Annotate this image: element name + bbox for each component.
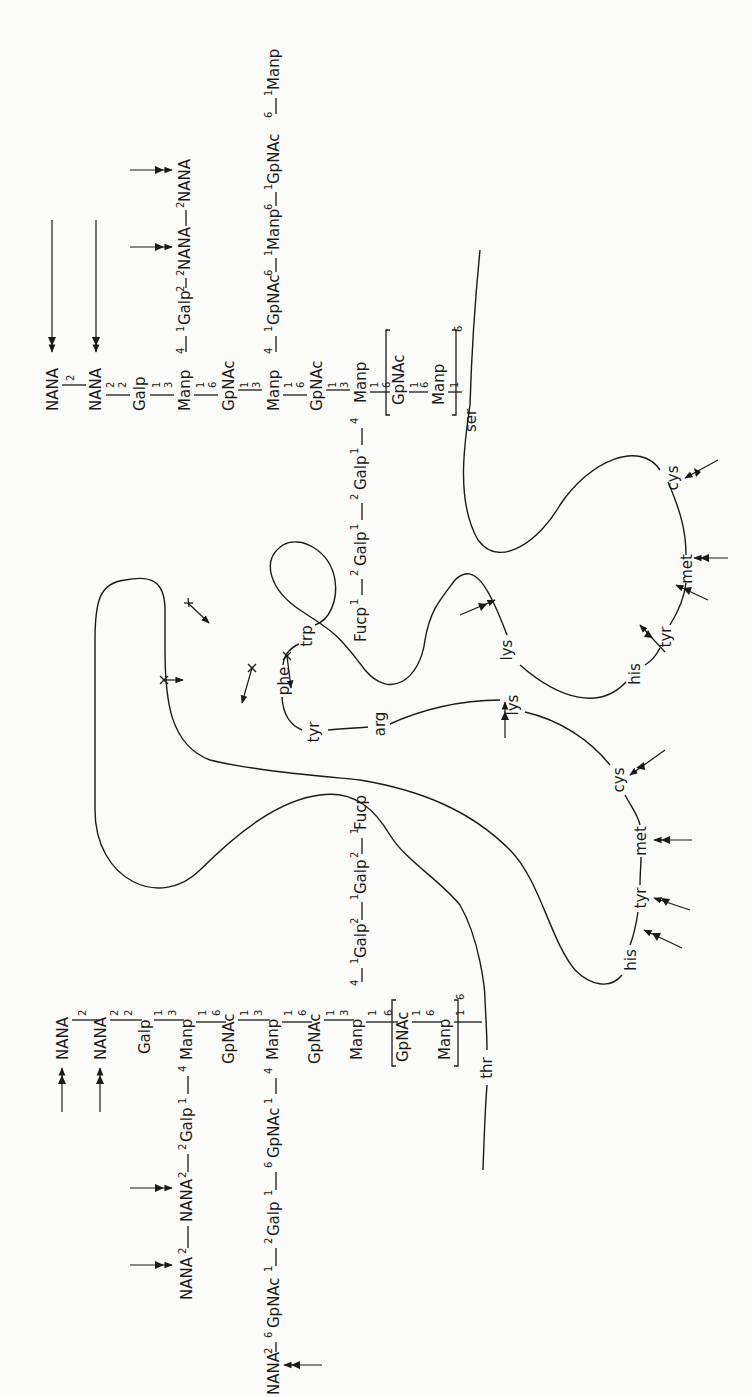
aa-cys-lower: cys: [610, 767, 628, 792]
svg-text:1: 1: [369, 382, 380, 388]
branch-1: 4 1 Galp 2 2 NANA 2 NANA: [175, 158, 194, 354]
svg-text:2: 2: [77, 1010, 88, 1016]
svg-text:3: 3: [253, 1010, 264, 1016]
svg-text:2: 2: [263, 1238, 274, 1244]
svg-text:3: 3: [163, 382, 174, 388]
sugar-manp: Manp: [178, 1019, 196, 1060]
sugar-nana: NANA: [178, 1178, 196, 1222]
svg-text:1: 1: [283, 1010, 294, 1016]
sugar-manp: Manp: [430, 364, 448, 405]
svg-text:3: 3: [167, 1010, 178, 1016]
sugar-manp: Manp: [352, 362, 370, 403]
sugar-manp: Manp: [265, 370, 283, 411]
branch-2: 4 1 GpNAc 6 1 Manp 6 1 GpNAc 6 1 Manp: [263, 49, 283, 354]
svg-text:1: 1: [349, 524, 360, 530]
svg-text:4: 4: [349, 418, 360, 424]
svg-text:1: 1: [349, 448, 360, 454]
svg-text:6: 6: [263, 1332, 274, 1338]
svg-text:2: 2: [349, 852, 360, 858]
crossed-arrow-icon: [160, 676, 183, 684]
chain-segment-met-tyr: [640, 857, 641, 885]
sugar-nana: NANA: [54, 1016, 72, 1060]
svg-text:1: 1: [153, 1010, 164, 1016]
aa-cys-upper: cys: [664, 465, 682, 490]
svg-text:1: 1: [239, 1010, 250, 1016]
aa-tyr-upper: tyr: [657, 626, 675, 648]
repeat-count: 6: [453, 326, 464, 332]
double-arrow-icon: [630, 750, 665, 775]
aa-his-lower: his: [622, 949, 640, 971]
sugar-galp: Galp: [265, 1201, 283, 1236]
svg-text:4: 4: [263, 1068, 274, 1074]
svg-text:6: 6: [425, 1010, 436, 1016]
svg-text:1: 1: [263, 1190, 274, 1196]
sugar-nana: NANA: [178, 1256, 196, 1300]
svg-text:2: 2: [105, 382, 116, 388]
svg-text:2: 2: [117, 382, 128, 388]
double-arrow-icon: [644, 930, 682, 948]
svg-text:2: 2: [65, 375, 76, 381]
sugar-gpnac: GpNAc: [265, 274, 283, 325]
chain-segment-tyr-his: [630, 912, 638, 945]
glycan-upper: NANA NANA Galp Manp GpNAc Manp GpNAc Man…: [44, 49, 464, 642]
sugar-manp: Manp: [176, 370, 194, 411]
svg-text:1: 1: [263, 1098, 274, 1104]
svg-text:1: 1: [449, 382, 460, 388]
svg-text:1: 1: [177, 1098, 188, 1104]
double-arrow-icon: [130, 1261, 172, 1269]
sugar-galp: Galp: [352, 923, 370, 958]
aa-met-lower: met: [632, 826, 650, 856]
svg-text:1: 1: [325, 1010, 336, 1016]
chain-segment-lys-cys: [525, 712, 610, 765]
svg-text:6: 6: [297, 1010, 308, 1016]
svg-text:1: 1: [263, 1266, 274, 1272]
sugar-gpnac: GpNAc: [308, 360, 326, 411]
sugar-fucp: Fucp: [352, 795, 370, 830]
svg-text:1: 1: [455, 1010, 466, 1016]
svg-text:6: 6: [295, 382, 306, 388]
svg-text:1: 1: [195, 382, 206, 388]
chain-segment-phe-tyr: [282, 697, 302, 730]
sugar-gpnac: GpNAc: [306, 1013, 324, 1064]
sugar-gpnac: GpNAc: [265, 1277, 283, 1328]
svg-text:2: 2: [109, 1010, 120, 1016]
double-arrow-icon: [284, 1361, 322, 1369]
svg-text:2: 2: [177, 1172, 188, 1178]
svg-text:2: 2: [349, 918, 360, 924]
aa-met-upper: met: [678, 554, 696, 584]
svg-text:1: 1: [283, 382, 294, 388]
sugar-manp: Manp: [264, 1019, 282, 1060]
svg-text:1: 1: [263, 326, 274, 332]
svg-text:2: 2: [123, 1010, 134, 1016]
aa-his-upper: his: [626, 663, 644, 685]
svg-text:4: 4: [263, 348, 274, 354]
crossed-arrow-icon: [184, 598, 209, 623]
double-arrow-icon: [654, 898, 690, 910]
aa-tyr-lower: tyr: [632, 887, 650, 909]
cleavage-arrows: [48, 166, 728, 1369]
svg-text:3: 3: [339, 1010, 350, 1016]
double-arrow-icon: [694, 554, 728, 562]
glycan-lower: NANA NANA Galp Manp GpNAc Manp GpNAc Man…: [54, 795, 482, 1395]
svg-text:1: 1: [239, 382, 250, 388]
chain-segment-upper-tyr-his: [645, 648, 660, 665]
svg-text:2: 2: [177, 1144, 188, 1150]
chain-segment-arg-lys: [390, 700, 500, 724]
sugar-nana: NANA: [176, 158, 194, 202]
svg-text:2: 2: [177, 1248, 188, 1254]
svg-text:6: 6: [263, 270, 274, 276]
sugar-galp: Galp: [176, 290, 194, 325]
chain-segment-lys-fucp-loop: [270, 542, 507, 685]
aa-thr: thr: [478, 1056, 496, 1078]
sugar-gpnac: GpNAc: [265, 1107, 283, 1158]
svg-text:4: 4: [175, 348, 186, 354]
lower-branch-1: 4 1 Galp 2 2 NANA 2 NANA: [177, 1066, 196, 1300]
branch-3: 4 1 Galp 2 1 Galp 2 1 Fucp: [349, 418, 370, 642]
svg-text:4: 4: [349, 980, 360, 986]
svg-text:1: 1: [151, 382, 162, 388]
sugar-nana: NANA: [92, 1016, 110, 1060]
double-arrow-icon: [96, 1068, 104, 1112]
chain-segment-upper-cys-met: [668, 482, 686, 555]
svg-text:1: 1: [349, 599, 360, 605]
sugar-galp: Galp: [131, 376, 149, 411]
